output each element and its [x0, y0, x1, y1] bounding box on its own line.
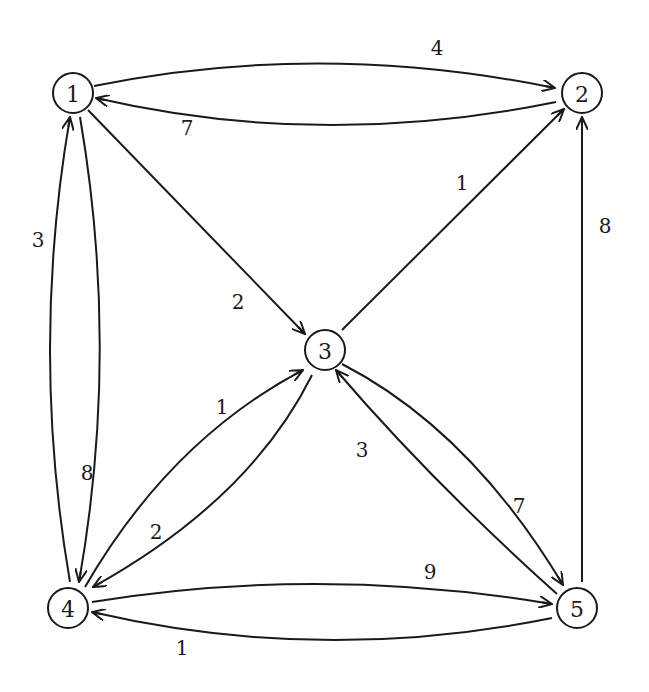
edge-weight-label: 3: [32, 228, 45, 252]
edge-4-to-1: 3: [32, 117, 70, 582]
edge-1-to-3: 2: [88, 110, 305, 334]
edge-line: [342, 109, 564, 330]
edge-weight-label: 2: [232, 290, 245, 314]
edge-line: [79, 117, 100, 582]
edge-weight-label: 2: [150, 520, 163, 544]
edge-line: [50, 117, 70, 582]
edge-3-to-5: 7: [342, 364, 563, 585]
edge-weight-label: 9: [424, 560, 437, 584]
edge-3-to-4: 2: [93, 375, 312, 587]
node-4: 4: [48, 588, 88, 628]
node-label: 3: [318, 339, 332, 364]
node-5: 5: [557, 588, 597, 628]
edge-line: [94, 63, 555, 88]
edge-weight-label: 1: [176, 636, 189, 660]
edge-2-to-1: 7: [96, 98, 556, 140]
edge-1-to-2: 4: [94, 36, 555, 88]
node-label: 1: [66, 82, 80, 107]
edge-line: [92, 612, 552, 640]
edge-weight-label: 3: [356, 438, 369, 462]
edge-weight-label: 1: [216, 395, 229, 419]
edge-weight-label: 1: [456, 171, 469, 195]
edge-1-to-4: 8: [79, 117, 100, 582]
edge-4-to-5: 9: [92, 560, 552, 604]
edge-line: [88, 110, 305, 334]
edge-weight-label: 8: [599, 214, 612, 238]
edge-line: [342, 364, 563, 585]
edge-weight-label: 8: [81, 461, 94, 485]
node-2: 2: [562, 73, 602, 113]
edge-line: [93, 375, 312, 587]
edge-weight-label: 7: [513, 494, 526, 518]
node-label: 2: [575, 82, 589, 107]
edge-3-to-2: 1: [342, 109, 564, 330]
edge-5-to-3: 3: [336, 370, 557, 594]
node-1: 1: [53, 73, 93, 113]
nodes-layer: 12345: [48, 73, 602, 628]
edge-weight-label: 4: [431, 36, 444, 60]
node-label: 5: [570, 597, 584, 622]
edge-4-to-3: 1: [85, 370, 303, 587]
node-3: 3: [305, 330, 345, 370]
edge-line: [92, 584, 552, 604]
edge-weight-label: 7: [181, 116, 194, 140]
node-label: 4: [61, 597, 75, 622]
edge-line: [85, 370, 303, 587]
graph-canvas: 4721838127391 12345: [0, 0, 649, 692]
edge-5-to-2: 8: [582, 117, 611, 582]
edge-5-to-4: 1: [92, 612, 552, 660]
edge-line: [96, 98, 556, 125]
edge-line: [336, 370, 557, 594]
